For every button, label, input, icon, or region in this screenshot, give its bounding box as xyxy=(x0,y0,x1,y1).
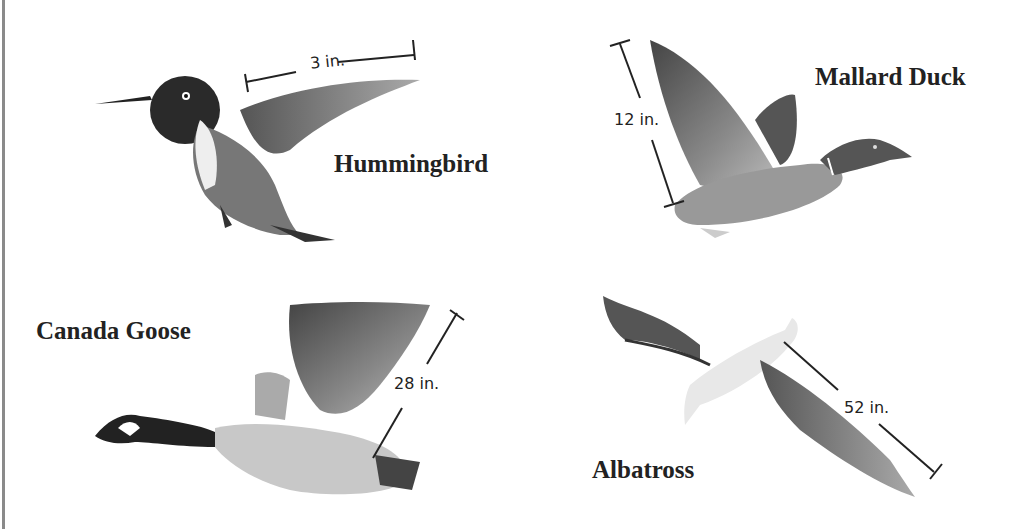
bird-label-canada-goose: Canada Goose xyxy=(36,317,191,345)
wingspan-label-albatross: 52 in. xyxy=(844,398,889,417)
wingspan-label-hummingbird: 3 in. xyxy=(309,50,346,73)
bird-label-hummingbird: Hummingbird xyxy=(334,150,488,178)
bird-label-mallard-duck: Mallard Duck xyxy=(815,63,966,91)
bird-label-albatross: Albatross xyxy=(592,456,694,484)
wingspan-label-canada-goose: 28 in. xyxy=(394,374,439,393)
wingspan-label-mallard-duck: 12 in. xyxy=(614,110,659,129)
